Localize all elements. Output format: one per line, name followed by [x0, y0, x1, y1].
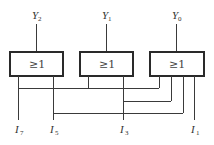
- label-i5: I 5: [49, 123, 59, 137]
- label-y2: Y 2: [32, 9, 42, 23]
- encoder-diagram: ≥1 ≥1 ≥1 Y 2 Y 1 Y 0 I 7 I 5 I 3 I 1: [0, 0, 214, 145]
- label-y1: Y 1: [102, 9, 112, 23]
- label-i7: I 7: [14, 123, 24, 137]
- svg-text:7: 7: [20, 129, 24, 137]
- label-y0: Y 0: [172, 9, 182, 23]
- svg-text:1: 1: [108, 15, 112, 23]
- svg-text:5: 5: [55, 129, 59, 137]
- svg-text:0: 0: [178, 15, 182, 23]
- gate-symbol-y0: ≥1: [169, 58, 185, 71]
- gate-symbol-y2: ≥1: [29, 58, 45, 71]
- label-i1: I 1: [190, 123, 200, 137]
- svg-text:3: 3: [125, 129, 129, 137]
- svg-text:1: 1: [196, 129, 200, 137]
- gate-symbol-y1: ≥1: [99, 58, 115, 71]
- label-i3: I 3: [119, 123, 129, 137]
- svg-text:2: 2: [38, 15, 42, 23]
